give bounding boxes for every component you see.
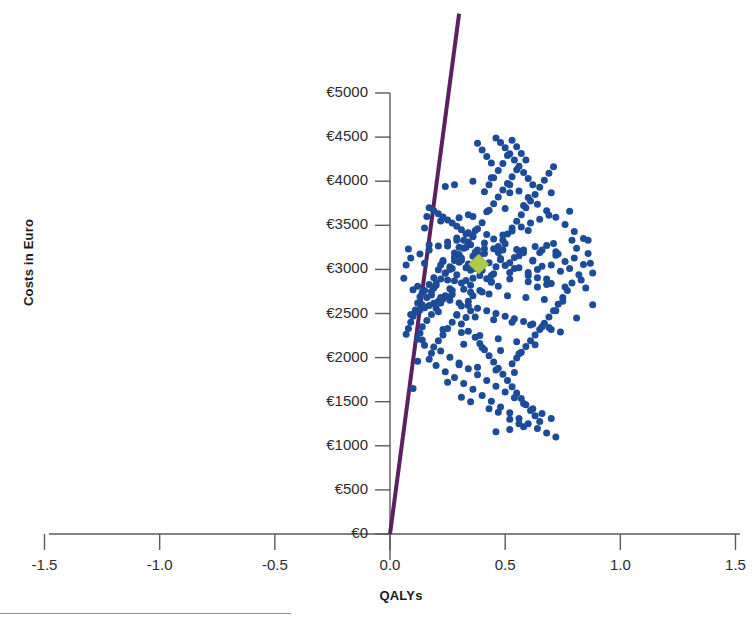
scatter-point xyxy=(536,418,543,425)
scatter-point xyxy=(568,280,575,287)
scatter-point xyxy=(458,254,465,261)
scatter-point xyxy=(506,276,513,283)
scatter-point xyxy=(520,400,527,407)
scatter-point xyxy=(534,201,541,208)
scatter-point xyxy=(474,364,481,371)
scatter-point xyxy=(534,425,541,432)
scatter-point xyxy=(536,216,543,223)
scatter-point xyxy=(499,232,506,239)
scatter-point xyxy=(589,301,596,308)
scatter-point xyxy=(483,307,490,314)
x-tick-label: -1.0 xyxy=(120,556,200,573)
scatter-point xyxy=(490,235,497,242)
scatter-point xyxy=(539,410,546,417)
scatter-point xyxy=(550,163,557,170)
scatter-point xyxy=(541,177,548,184)
x-tick-label: -1.5 xyxy=(5,556,85,573)
scatter-point xyxy=(467,289,474,296)
scatter-point xyxy=(479,392,486,399)
scatter-point xyxy=(414,283,421,290)
x-tick-label: -0.5 xyxy=(235,556,315,573)
y-tick-label: €0 xyxy=(250,524,368,541)
footer-divider-rule xyxy=(0,613,291,614)
x-axis-ticks xyxy=(45,534,736,550)
scatter-point xyxy=(463,264,470,271)
scatter-point xyxy=(442,183,449,190)
scatter-point xyxy=(492,383,499,390)
scatter-point xyxy=(474,140,481,147)
scatter-point xyxy=(421,224,428,231)
scatter-point xyxy=(419,289,426,296)
scatter-point xyxy=(444,379,451,386)
scatter-point xyxy=(550,240,557,247)
scatter-point xyxy=(552,433,559,440)
scatter-point xyxy=(502,205,509,212)
scatter-point xyxy=(525,269,532,276)
scatter-point xyxy=(403,331,410,338)
scatter-point xyxy=(458,394,465,401)
scatter-point xyxy=(562,284,569,291)
scatter-point xyxy=(502,240,509,247)
scatter-point xyxy=(483,377,490,384)
scatter-point xyxy=(465,365,472,372)
scatter-point xyxy=(465,302,472,309)
scatter-point xyxy=(433,362,440,369)
scatter-point xyxy=(426,204,433,211)
scatter-point xyxy=(499,371,506,378)
scatter-point xyxy=(539,263,546,270)
scatter-point xyxy=(532,332,539,339)
scatter-point xyxy=(509,173,516,180)
scatter-point xyxy=(481,245,488,252)
scatter-point xyxy=(486,291,493,298)
scatter-point xyxy=(585,250,592,257)
scatter-point xyxy=(566,265,573,272)
scatter-point xyxy=(488,272,495,279)
scatter-point xyxy=(536,184,543,191)
scatter-point xyxy=(463,314,470,321)
scatter-point xyxy=(426,356,433,363)
scatter-point xyxy=(513,338,520,345)
scatter-point xyxy=(552,307,559,314)
y-tick-label: €1000 xyxy=(250,436,368,453)
scatter-point xyxy=(502,313,509,320)
scatter-point xyxy=(548,261,555,268)
scatter-point xyxy=(518,211,525,218)
scatter-point xyxy=(407,311,414,318)
x-tick-label: 1.5 xyxy=(696,556,754,573)
scatter-point xyxy=(442,368,449,375)
scatter-point xyxy=(437,217,444,224)
scatter-point xyxy=(527,220,534,227)
scatter-point xyxy=(545,212,552,219)
scatter-point xyxy=(587,260,594,267)
scatter-point xyxy=(416,329,423,336)
scatter-point xyxy=(467,398,474,405)
scatter-point xyxy=(568,237,575,244)
scatter-point xyxy=(525,175,532,182)
scatter-point xyxy=(529,258,536,265)
scatter-point xyxy=(515,187,522,194)
scatter-point xyxy=(506,416,513,423)
scatter-point xyxy=(578,276,585,283)
scatter-point xyxy=(421,260,428,267)
scatter-point xyxy=(460,286,467,293)
scatter-point xyxy=(499,246,506,253)
scatter-point xyxy=(515,163,522,170)
scatter-point xyxy=(449,319,456,326)
scatter-point xyxy=(495,167,502,174)
scatter-point xyxy=(451,374,458,381)
scatter-point xyxy=(472,227,479,234)
scatter-point xyxy=(562,258,569,265)
scatter-point xyxy=(410,385,417,392)
scatter-point xyxy=(513,218,520,225)
scatter-point xyxy=(437,294,444,301)
scatter-point xyxy=(525,227,532,234)
scatter-point xyxy=(495,283,502,290)
scatter-point xyxy=(499,187,506,194)
scatter-point xyxy=(483,153,490,160)
scatter-point xyxy=(589,269,596,276)
scatter-point xyxy=(446,297,453,304)
scatter-point xyxy=(437,347,444,354)
scatter-point xyxy=(407,319,414,326)
scatter-point xyxy=(490,200,497,207)
scatter-point xyxy=(476,332,483,339)
